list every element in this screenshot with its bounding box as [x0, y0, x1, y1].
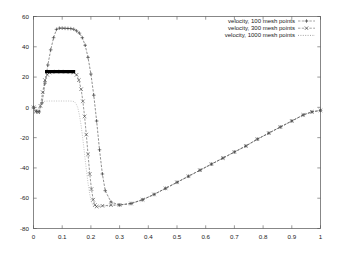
y-tick-label: -20 — [20, 134, 30, 141]
y-tick-label: 0 — [26, 104, 30, 111]
x-tick-label: 0.8 — [259, 233, 268, 240]
series-1 — [32, 26, 323, 206]
x-tick-label: 0.5 — [173, 233, 182, 240]
axes-frame — [34, 17, 321, 229]
x-tick-label: 0.3 — [115, 233, 124, 240]
y-tick-label: -60 — [20, 194, 30, 201]
y-axis-ticks — [34, 17, 321, 229]
x-tick-label: 0.1 — [58, 233, 67, 240]
chart-legend: velocity, 100 mesh pointsvelocity, 300 m… — [225, 18, 315, 38]
x-tick-label: 0.2 — [87, 233, 96, 240]
x-axis-ticks — [34, 17, 321, 229]
y-tick-label: -80 — [20, 225, 30, 232]
legend-label: velocity, 300 mesh points — [228, 25, 295, 31]
chart-canvas: 00.10.20.30.40.50.60.70.80.91 6040200-20… — [0, 0, 340, 256]
x-tick-label: 0.9 — [287, 233, 296, 240]
x-tick-label: 0.4 — [144, 233, 153, 240]
series-line — [34, 101, 321, 208]
x-tick-label: 0.6 — [201, 233, 210, 240]
y-tick-label: 40 — [22, 43, 29, 50]
y-tick-label: -40 — [20, 164, 30, 171]
x-tick-label: 0.7 — [230, 233, 239, 240]
y-tick-label: 20 — [22, 73, 29, 80]
plot-frame — [34, 17, 321, 229]
series-line — [34, 28, 321, 205]
chart-figure: 00.10.20.30.40.50.60.70.80.91 6040200-20… — [0, 0, 340, 256]
series-2 — [32, 70, 323, 209]
legend-label: velocity, 1000 mesh points — [225, 32, 295, 38]
x-axis-tick-labels: 00.10.20.30.40.50.60.70.80.91 — [32, 233, 323, 240]
series-3 — [34, 101, 321, 208]
y-tick-label: 60 — [22, 13, 29, 20]
x-tick-label: 1 — [319, 233, 323, 240]
data-series-group — [32, 26, 323, 208]
y-axis-tick-labels: 6040200-20-40-60-80 — [20, 13, 30, 232]
x-tick-label: 0 — [32, 233, 36, 240]
series-line — [34, 72, 321, 207]
legend-label: velocity, 100 mesh points — [228, 18, 295, 24]
